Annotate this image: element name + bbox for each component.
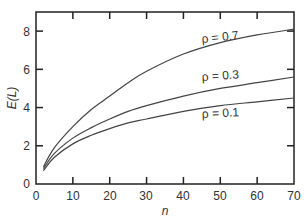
x-tick-40: 40 — [176, 189, 190, 203]
curve-label-rho-03: ρ = 0.3 — [201, 67, 239, 84]
curve-label-rho-07: ρ = 0.7 — [201, 28, 240, 46]
x-tick-30: 30 — [139, 189, 153, 203]
x-tick-20: 20 — [103, 189, 117, 203]
x-tick-0: 0 — [33, 189, 40, 203]
x-tick-50: 50 — [213, 189, 227, 203]
y-tick-0: 0 — [23, 177, 30, 191]
y-tick-2: 2 — [23, 139, 30, 153]
y-tick-8: 8 — [23, 25, 30, 39]
y-tick-6: 6 — [23, 63, 30, 77]
curve-0 — [43, 29, 294, 167]
axis-ticks — [36, 12, 294, 184]
curves — [43, 29, 294, 170]
curve-label-rho-01: ρ = 0.1 — [201, 105, 239, 121]
x-tick-10: 10 — [66, 189, 80, 203]
x-tick-70: 70 — [287, 189, 301, 203]
curve-1 — [43, 77, 294, 169]
x-axis-label: n — [162, 204, 169, 218]
y-tick-4: 4 — [23, 101, 30, 115]
plot-frame — [36, 12, 294, 184]
y-axis-label: E(L) — [5, 87, 19, 110]
chart: 0 10 20 30 40 50 60 70 0 2 4 6 8 n E(L) … — [0, 0, 308, 220]
x-tick-60: 60 — [250, 189, 264, 203]
curve-2 — [43, 98, 294, 171]
